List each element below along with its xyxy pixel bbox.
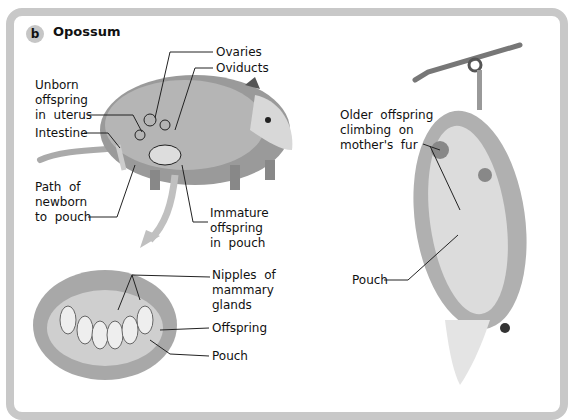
label-unborn-offspring: Unborn offspring in uterus xyxy=(35,78,92,123)
label-offspring: Offspring xyxy=(212,321,267,336)
figure-badge: b xyxy=(26,25,44,43)
figure-title: Opossum xyxy=(53,24,121,39)
label-intestine: Intestine xyxy=(35,126,88,141)
label-oviducts: Oviducts xyxy=(216,61,269,76)
pouch-inset xyxy=(33,270,177,380)
hanging-opossum xyxy=(400,45,540,385)
label-pouch-inset: Pouch xyxy=(212,349,248,364)
label-older-offspring: Older offspring climbing on mother's fur xyxy=(340,108,433,153)
label-immature-offspring: Immature offspring in pouch xyxy=(210,206,269,251)
label-path-of-newborn: Path of newborn to pouch xyxy=(35,180,91,225)
label-pouch-hanging: Pouch xyxy=(352,273,388,288)
label-ovaries: Ovaries xyxy=(216,45,262,60)
label-nipples: Nipples of mammary glands xyxy=(212,268,276,313)
